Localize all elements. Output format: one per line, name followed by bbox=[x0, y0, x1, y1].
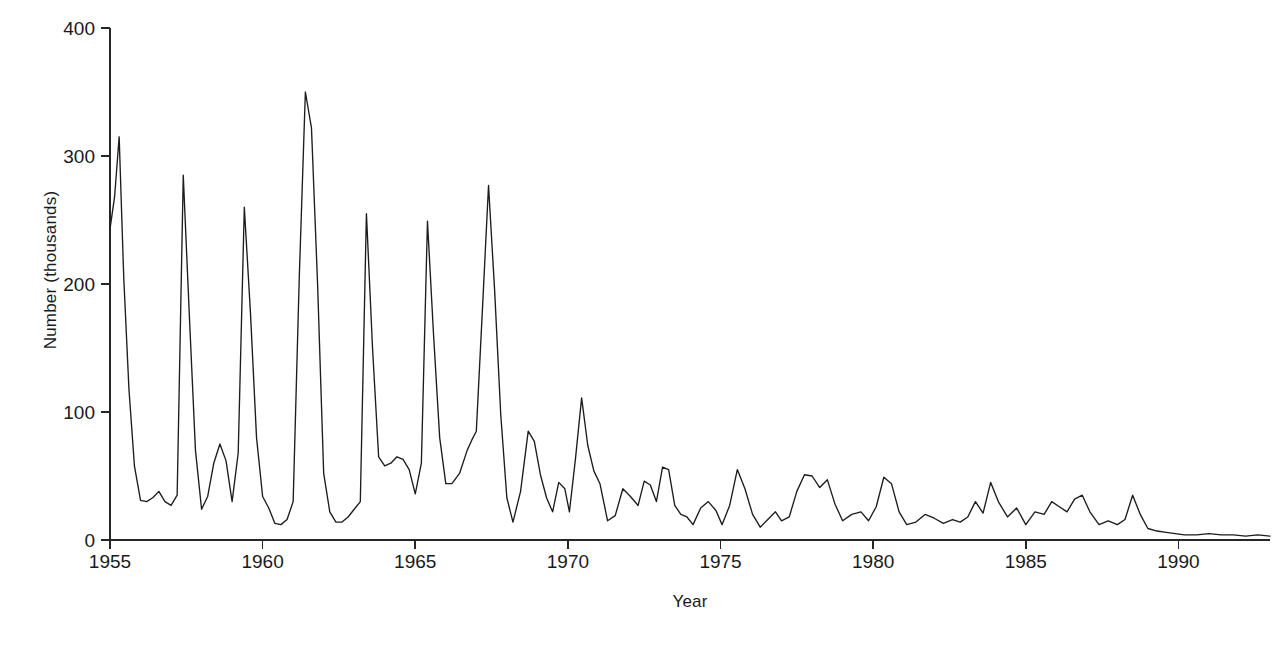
x-tick-label: 1990 bbox=[1133, 552, 1223, 571]
line-chart: 0100200300400 19551960196519701975198019… bbox=[0, 0, 1281, 646]
y-axis-ticks bbox=[101, 28, 110, 540]
chart-plot-area bbox=[0, 0, 1281, 646]
x-tick-label: 1975 bbox=[676, 552, 766, 571]
x-tick-label: 1970 bbox=[523, 552, 613, 571]
x-tick-label: 1960 bbox=[218, 552, 308, 571]
data-series-group bbox=[110, 92, 1270, 536]
data-series-line bbox=[110, 92, 1270, 536]
x-tick-label: 1965 bbox=[370, 552, 460, 571]
x-axis-title: Year bbox=[110, 592, 1270, 612]
x-axis-ticks bbox=[110, 540, 1178, 549]
x-tick-label: 1980 bbox=[828, 552, 918, 571]
x-tick-label: 1955 bbox=[65, 552, 155, 571]
x-tick-label: 1985 bbox=[981, 552, 1071, 571]
y-axis-title: Number (thousands) bbox=[34, 0, 68, 540]
